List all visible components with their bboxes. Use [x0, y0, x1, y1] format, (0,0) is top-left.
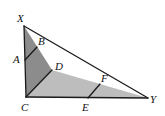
label-c: C [21, 101, 29, 113]
label-y: Y [150, 93, 158, 105]
label-d: D [54, 60, 63, 72]
triangle-diagram: X B A D C F E Y [0, 0, 165, 116]
label-b: B [38, 35, 45, 47]
label-f: F [100, 72, 108, 84]
label-x: X [16, 12, 25, 24]
label-e: E [81, 101, 89, 113]
label-a: A [12, 53, 20, 65]
